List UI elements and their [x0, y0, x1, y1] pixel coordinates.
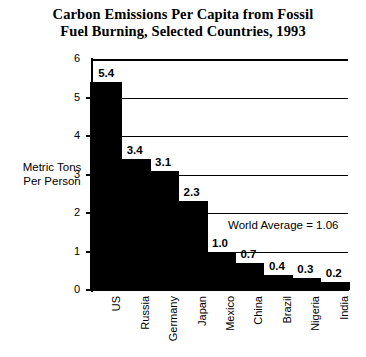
x-axis-tick-mark	[91, 283, 93, 290]
x-axis-category-label: Japan	[197, 296, 208, 326]
x-axis-category-label: India	[339, 296, 350, 320]
x-axis-category-label: China	[253, 296, 264, 325]
bar-value-label: 3.4	[115, 144, 155, 156]
chart-figure: Carbon Emissions Per Capita from Fossil …	[0, 0, 366, 357]
bar-value-label: 1.0	[200, 237, 240, 249]
x-axis-category-label: Mexico	[225, 296, 236, 331]
x-axis-category-label: Brazil	[282, 296, 293, 324]
bar-value-label: 0.2	[314, 267, 354, 279]
bar	[90, 82, 122, 290]
y-axis-tick-label: 4	[64, 130, 80, 141]
bar	[318, 282, 350, 290]
x-axis-category-label: Germany	[168, 296, 179, 341]
x-axis-tick-mark	[233, 283, 235, 290]
y-axis-tick-label: 5	[64, 92, 80, 103]
chart-title-line-1: Carbon Emissions Per Capita from Fossil	[0, 6, 366, 23]
y-axis-tick-label: 3	[64, 169, 80, 180]
bar-value-label: 0.7	[228, 248, 268, 260]
x-axis-tick-mark	[262, 283, 264, 290]
y-axis-tick-label: 6	[64, 53, 80, 64]
y-axis-tick-label: 0	[64, 284, 80, 295]
chart-title-line-2: Fuel Burning, Selected Countries, 1993	[0, 23, 366, 40]
x-axis-tick-mark	[319, 283, 321, 290]
x-axis-tick-mark	[119, 283, 121, 290]
y-axis-tick-label: 1	[64, 246, 80, 257]
plot-area	[92, 59, 348, 290]
x-axis-category-label: Russia	[140, 296, 151, 330]
y-axis-tick-mark	[86, 251, 92, 253]
y-axis-tick-mark	[86, 97, 92, 99]
bar	[289, 278, 321, 290]
gridline	[92, 59, 348, 61]
x-axis-tick-mark	[347, 283, 349, 290]
bar	[119, 159, 151, 290]
bar-value-label: 3.1	[143, 156, 183, 168]
chart-title: Carbon Emissions Per Capita from Fossil …	[0, 6, 366, 40]
world-average-annotation: World Average = 1.06	[228, 219, 339, 231]
x-axis-tick-mark	[205, 283, 207, 290]
bar	[261, 275, 293, 290]
x-axis-category-label: US	[111, 296, 122, 311]
y-axis-tick-mark	[86, 212, 92, 214]
y-axis-tick-mark	[86, 135, 92, 137]
x-axis-category-label: Nigeria	[310, 296, 321, 331]
gridline	[92, 98, 348, 99]
x-axis-tick-mark	[148, 283, 150, 290]
y-axis-tick-mark	[86, 174, 92, 176]
bar-value-label: 5.4	[86, 67, 126, 79]
y-axis-tick-label: 2	[64, 207, 80, 218]
x-axis-tick-mark	[176, 283, 178, 290]
bar-value-label: 2.3	[172, 186, 212, 198]
gridline	[92, 136, 348, 137]
x-axis-tick-mark	[290, 283, 292, 290]
